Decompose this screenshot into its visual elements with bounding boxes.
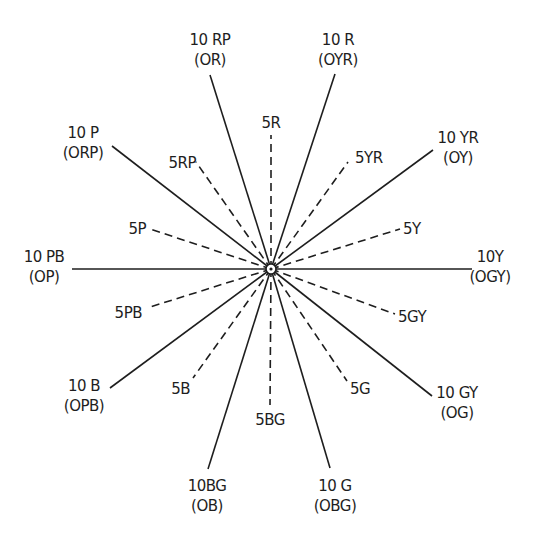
label-10r: 10 R	[322, 31, 354, 49]
spoke-5b	[193, 269, 271, 378]
spoke-10rp	[210, 75, 271, 269]
spoke-10r	[271, 74, 335, 269]
label-5bg: 5BG	[255, 411, 285, 429]
label-10p: 10 P	[68, 124, 99, 142]
spoke-10yr	[271, 150, 433, 269]
label-10yr: 10 YR	[438, 129, 479, 147]
spoke-5bg	[270, 269, 271, 405]
label-10b: 10 B	[68, 377, 100, 395]
label-5r: 5R	[262, 114, 281, 132]
spoke-10gy	[271, 269, 432, 396]
spoke-5yr	[271, 162, 348, 269]
label-10gy: 10 GY	[436, 384, 479, 402]
munsell-hue-diagram: 10 RP(OR)5R10 R(OYR)5YR10 YR(OY)5Y10Y(OG…	[0, 0, 539, 542]
label-5pb: 5PB	[115, 304, 143, 322]
spoke-10g	[271, 269, 330, 468]
center-hub	[266, 264, 276, 274]
label-5y: 5Y	[403, 220, 422, 238]
label-5p: 5P	[128, 220, 146, 238]
label-10y: 10Y	[477, 248, 505, 266]
label-10g: 10 G	[318, 477, 351, 495]
sublabel-10b: (OPB)	[64, 397, 104, 415]
label-5g: 5G	[350, 380, 370, 398]
label-5rp: 5RP	[168, 154, 196, 172]
sublabel-10gy: (OG)	[440, 404, 473, 422]
spoke-5gy	[271, 269, 395, 314]
spoke-5pb	[147, 269, 271, 308]
sublabel-10rp: (OR)	[194, 51, 226, 69]
spoke-5g	[271, 269, 347, 381]
spoke-10bg	[208, 269, 271, 469]
sublabel-10pb: (OP)	[29, 268, 60, 286]
label-5yr: 5YR	[355, 149, 383, 167]
sublabel-10y: (OGY)	[469, 268, 510, 286]
sublabel-10yr: (OY)	[443, 149, 473, 167]
sublabel-10r: (OYR)	[318, 51, 358, 69]
label-5gy: 5GY	[398, 308, 427, 326]
sublabel-10g: (OBG)	[314, 497, 357, 515]
spoke-5y	[271, 229, 400, 269]
label-10pb: 10 PB	[24, 248, 65, 266]
label-10bg: 10BG	[188, 477, 227, 495]
label-10rp: 10 RP	[190, 31, 231, 49]
sublabel-10bg: (OB)	[191, 497, 223, 515]
center-dot	[269, 267, 272, 270]
label-5b: 5B	[171, 380, 190, 398]
spoke-5p	[150, 229, 271, 269]
spoke-5rp	[196, 162, 271, 269]
sublabel-10p: (ORP)	[63, 144, 103, 162]
spoke-10b	[110, 269, 271, 388]
